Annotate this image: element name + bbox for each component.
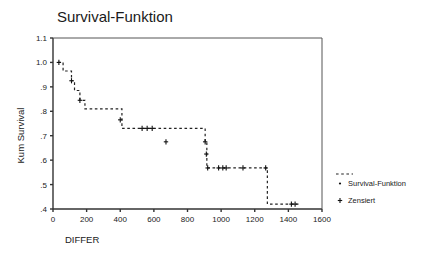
censored-marker: [164, 139, 168, 144]
censored-marker: [69, 78, 73, 83]
x-tick-label: 600: [147, 215, 161, 224]
x-tick-label: 1400: [279, 215, 297, 224]
x-tick-label: 800: [181, 215, 195, 224]
y-tick-label: 1.0: [36, 58, 48, 67]
censored-marker: [263, 165, 267, 170]
x-axis-label: DIFFER: [65, 234, 99, 245]
legend-plus-marker: [338, 198, 342, 203]
censored-marker: [241, 165, 245, 170]
chart-canvas: Survival-Funktion.4.5.6.7.8.91.01.102004…: [0, 0, 424, 264]
censored-marker: [150, 126, 154, 131]
y-tick-label: 1.1: [36, 34, 48, 43]
y-tick-label: .8: [40, 107, 47, 116]
x-tick-label: 400: [114, 215, 128, 224]
y-tick-label: .4: [40, 205, 47, 214]
censored-marker: [205, 165, 209, 170]
y-tick-label: .9: [40, 83, 47, 92]
x-tick-label: 1000: [212, 215, 230, 224]
x-tick-label: 0: [51, 215, 56, 224]
chart-title: Survival-Funktion: [57, 8, 173, 25]
y-tick-label: .6: [40, 156, 47, 165]
censored-marker: [224, 165, 228, 170]
legend-dot-marker: [339, 182, 341, 184]
x-tick-label: 1200: [246, 215, 264, 224]
censored-marker: [216, 165, 220, 170]
censored-marker: [140, 126, 144, 131]
legend-label: Zensiert: [348, 196, 376, 205]
legend-label: Survival-Funktion: [348, 179, 406, 188]
censored-marker: [78, 98, 82, 103]
survival-chart: Survival-Funktion.4.5.6.7.8.91.01.102004…: [0, 0, 424, 264]
censored-marker: [145, 126, 149, 131]
x-tick-label: 200: [80, 215, 94, 224]
x-tick-label: 1600: [313, 215, 331, 224]
y-tick-label: .5: [40, 181, 47, 190]
survival-step-line: [58, 62, 298, 204]
censored-marker: [57, 60, 61, 65]
censored-marker: [204, 151, 208, 156]
censored-marker: [118, 117, 122, 122]
y-tick-label: .7: [40, 132, 47, 141]
censored-marker: [293, 202, 297, 207]
y-axis-label: Kum Survival: [15, 108, 26, 164]
